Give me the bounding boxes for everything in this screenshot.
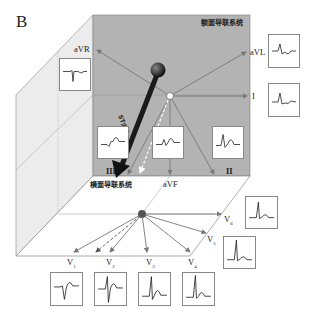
lead-label-iii: III — [106, 166, 116, 176]
ecg-v5 — [223, 236, 256, 269]
frontal-center-point — [167, 93, 174, 100]
ecg-avr — [59, 58, 91, 91]
horizontal-plane-label: 横面导联系统 — [90, 179, 132, 189]
ecg-i — [268, 83, 300, 117]
frontal-plane-label: 额面导联系统 — [201, 17, 243, 27]
lead-label-v1: V1 — [67, 257, 76, 269]
ecg-v4 — [182, 272, 215, 306]
ecg-iii — [97, 126, 129, 159]
lead-label-avl: aVL — [250, 47, 265, 57]
lead-label-v6: V6 — [224, 214, 233, 226]
ecg-lead-vector-diagram: B — [0, 0, 313, 321]
lead-label-avr: aVR — [74, 44, 90, 54]
ecg-v3 — [138, 272, 171, 306]
lead-label-v3: V3 — [146, 257, 155, 269]
lead-label-avf: aVF — [163, 179, 178, 189]
lead-label-v2: V2 — [106, 257, 115, 269]
lead-label-ii: II — [226, 166, 233, 176]
ecg-avl — [268, 34, 300, 68]
lead-label-v4: V4 — [188, 257, 197, 269]
ecg-ii — [212, 126, 244, 159]
ecg-v2 — [94, 272, 127, 306]
ecg-v6 — [245, 196, 278, 229]
lead-label-i: I — [252, 91, 255, 101]
ecg-v1 — [50, 272, 83, 306]
lead-label-v5: V5 — [207, 234, 216, 246]
st-vector-origin-ball — [151, 63, 166, 78]
ecg-avf — [152, 126, 184, 159]
horizontal-center-point — [138, 210, 146, 218]
